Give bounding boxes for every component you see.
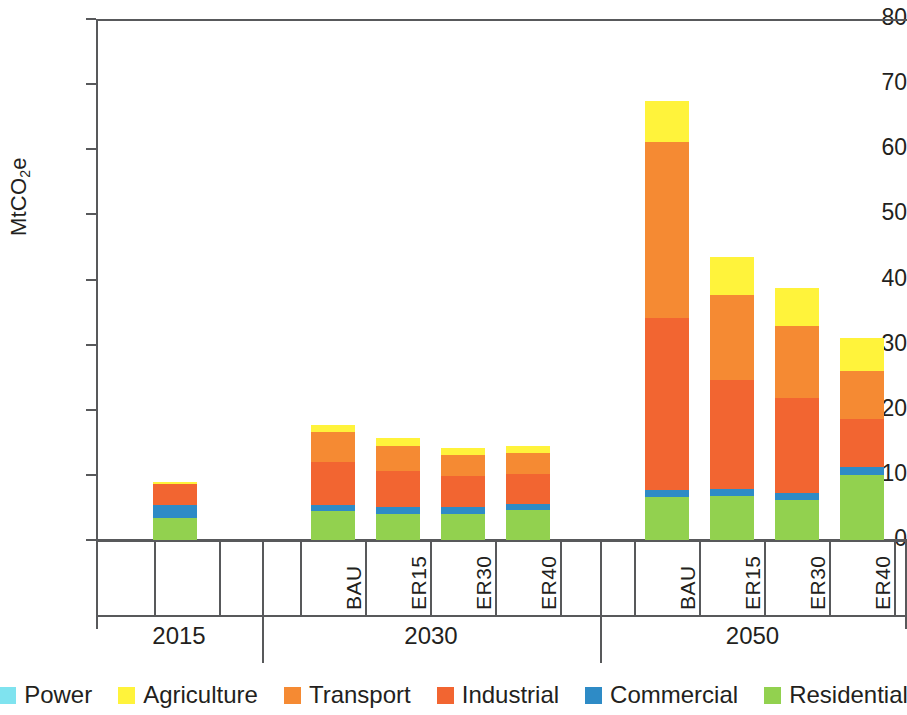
x-axis-divider (634, 542, 636, 616)
y-axis-tick (86, 279, 96, 281)
bar-segment-transport (376, 446, 420, 471)
bar-segment-residential (311, 511, 355, 540)
legend-swatch-agriculture (118, 687, 135, 704)
legend-item-agriculture[interactable]: Agriculture (118, 683, 258, 707)
bar-segment-transport (441, 455, 485, 476)
x-axis-divider (219, 542, 221, 616)
bar-segment-agriculture (840, 338, 884, 371)
plot-area (96, 19, 907, 540)
x-axis-group-rule (96, 615, 262, 617)
bar-2030-er30 (441, 448, 485, 540)
y-axis-tick (86, 213, 96, 215)
x-axis-divider (600, 542, 602, 616)
x-axis-divider (262, 542, 264, 616)
bar-segment-industrial (153, 484, 197, 505)
bar-segment-agriculture (311, 425, 355, 432)
legend-swatch-power (0, 687, 16, 704)
x-axis-scenario-label: BAU (342, 544, 366, 610)
x-axis-scenario-label: ER40 (871, 544, 895, 610)
legend-swatch-residential (764, 687, 781, 704)
bar-segment-industrial (441, 476, 485, 508)
bar-segment-commercial (153, 505, 197, 518)
y-axis-label-pre: MtCO (6, 178, 31, 236)
bar-segment-agriculture (441, 448, 485, 455)
legend-label: Power (24, 683, 92, 707)
x-axis-group-separator (600, 615, 602, 663)
legend-item-residential[interactable]: Residential (764, 683, 907, 707)
y-axis-tick (86, 539, 96, 541)
legend-item-commercial[interactable]: Commercial (585, 683, 738, 707)
bar-2050-er30 (775, 288, 819, 540)
x-axis-group-label: 2050 (600, 622, 905, 650)
bar-segment-commercial (840, 467, 884, 475)
legend-item-industrial[interactable]: Industrial (437, 683, 559, 707)
bar-segment-agriculture (710, 257, 754, 294)
bar-segment-residential (645, 497, 689, 540)
x-axis-group-separator (96, 615, 98, 629)
bar-segment-transport (840, 371, 884, 419)
y-axis-tick (86, 148, 96, 150)
bar-segment-residential (376, 514, 420, 540)
x-axis-divider (300, 542, 302, 616)
emissions-stacked-bar-chart: MtCO2e 01020304050607080 BAUER15ER30ER40… (0, 0, 907, 715)
x-axis-divider (154, 542, 156, 616)
x-axis-group-rule (600, 615, 905, 617)
x-axis-scenario-label: BAU (676, 544, 700, 610)
y-axis-tick (86, 83, 96, 85)
x-axis-group-label: 2030 (262, 622, 600, 650)
y-axis-label-subscript: 2 (17, 170, 33, 178)
bar-segment-transport (775, 326, 819, 398)
x-axis-scenario-label: ER30 (806, 544, 830, 610)
bar-segment-transport (645, 142, 689, 318)
y-axis-tick (86, 344, 96, 346)
legend-label: Commercial (610, 683, 738, 707)
x-axis-group-separator (262, 615, 264, 663)
bar-segment-commercial (710, 489, 754, 496)
legend-item-power[interactable]: Power (0, 683, 92, 707)
bar-segment-industrial (376, 471, 420, 507)
bar-segment-industrial (645, 318, 689, 490)
bar-segment-agriculture (645, 101, 689, 142)
y-axis-tick (86, 474, 96, 476)
bar-segment-industrial (775, 398, 819, 493)
x-axis-divider (96, 542, 98, 616)
bar-2050-er15 (710, 257, 754, 540)
legend-label: Transport (309, 683, 411, 707)
x-axis-group-label: 2015 (96, 622, 262, 650)
bar-segment-commercial (775, 493, 819, 500)
bar-segment-residential (506, 510, 550, 540)
legend-swatch-commercial (585, 687, 602, 704)
bar-segment-residential (153, 518, 197, 540)
chart-legend: PowerAgricultureTransportIndustrialComme… (0, 683, 907, 707)
bar-segment-transport (710, 295, 754, 381)
x-axis-scenario-label: ER30 (472, 544, 496, 610)
bar-segment-transport (311, 432, 355, 462)
bar-2030-bau (311, 425, 355, 540)
legend-swatch-industrial (437, 687, 454, 704)
legend-swatch-transport (284, 687, 301, 704)
y-axis-label: MtCO2e (6, 96, 32, 236)
bar-segment-residential (441, 514, 485, 540)
bar-2050-bau (645, 101, 689, 540)
y-axis-label-post: e (6, 157, 31, 169)
bar-segment-residential (775, 500, 819, 540)
bar-segment-commercial (645, 490, 689, 497)
bar-segment-agriculture (506, 446, 550, 453)
bar-segment-residential (710, 496, 754, 540)
legend-label: Agriculture (143, 683, 258, 707)
bar-segment-residential (840, 475, 884, 540)
legend-label: Industrial (462, 683, 559, 707)
y-axis-tick (86, 18, 96, 20)
bar-2030-er15 (376, 438, 420, 540)
bar-segment-industrial (710, 380, 754, 489)
legend-label: Residential (789, 683, 907, 707)
legend-item-transport[interactable]: Transport (284, 683, 411, 707)
bar-segment-agriculture (775, 288, 819, 326)
x-axis-scenario-label: ER40 (537, 544, 561, 610)
bar-segment-agriculture (376, 438, 420, 445)
y-axis-tick (86, 409, 96, 411)
bar-segment-industrial (840, 419, 884, 467)
bar-2030-er40 (506, 446, 550, 540)
bar-segment-industrial (506, 474, 550, 503)
x-axis-scenario-label: ER15 (407, 544, 431, 610)
